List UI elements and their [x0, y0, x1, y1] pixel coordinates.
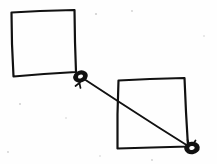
- paper-speck: [7, 151, 9, 153]
- paper-speck: [203, 35, 205, 37]
- paper-speck: [95, 13, 97, 15]
- diagram-svg: [0, 0, 217, 164]
- paper-speck: [131, 10, 133, 12]
- sketch-canvas: [0, 0, 217, 164]
- paper-speck: [65, 117, 67, 119]
- paper-speck: [151, 159, 153, 161]
- square-bottom-right[interactable]: [118, 78, 189, 149]
- paper-speck: [99, 155, 101, 157]
- connector-line[interactable]: [83, 78, 191, 148]
- paper-speck: [19, 103, 21, 105]
- square-top-left[interactable]: [12, 10, 77, 77]
